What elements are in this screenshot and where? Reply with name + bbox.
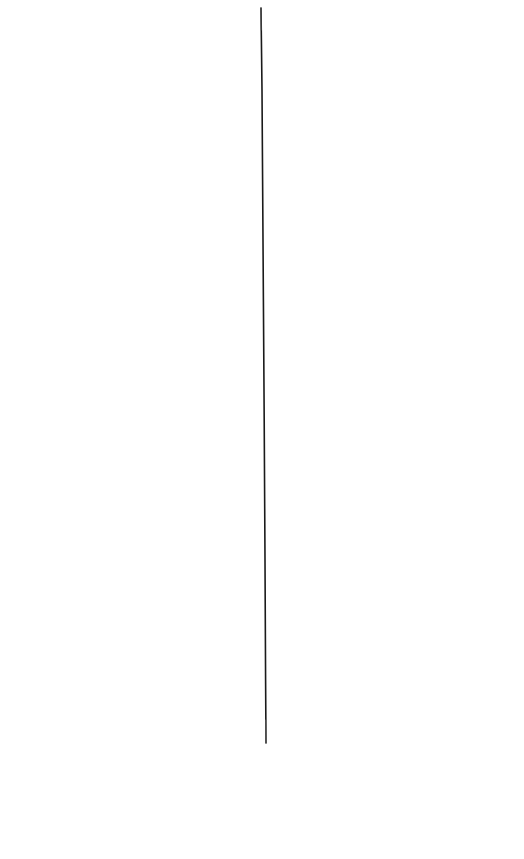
- line-drawing: [0, 0, 524, 859]
- drawing-canvas: [0, 0, 524, 859]
- vertical-stroke: [261, 8, 266, 743]
